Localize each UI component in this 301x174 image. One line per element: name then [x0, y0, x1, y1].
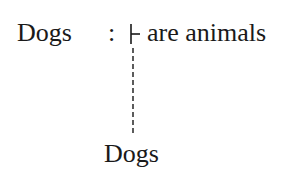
colon-symbol: :	[108, 20, 115, 46]
bottom-label: Dogs	[104, 141, 159, 167]
subject-label: Dogs	[17, 20, 72, 46]
turnstile-icon	[130, 24, 140, 44]
predicate-label: are animals	[147, 20, 266, 46]
dashed-connector	[132, 48, 134, 133]
